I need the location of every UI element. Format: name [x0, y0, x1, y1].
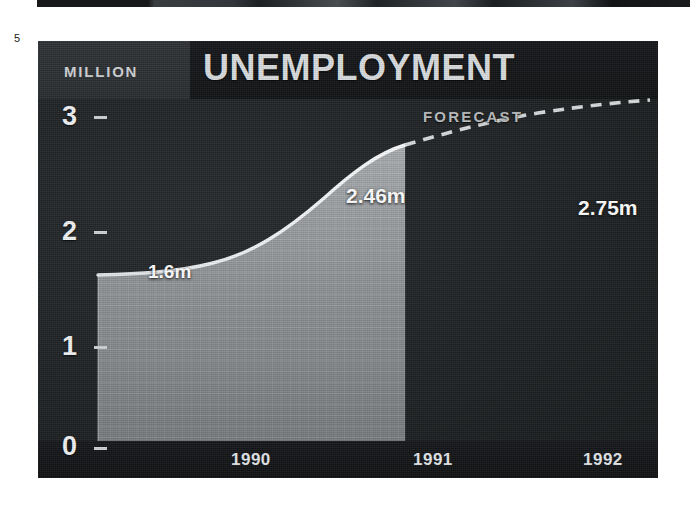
- x-tick-label-1990: 1990: [231, 450, 271, 470]
- plot-area: [38, 41, 658, 478]
- figure-number: 5: [14, 32, 20, 44]
- x-tick-label-1991: 1991: [413, 450, 453, 470]
- y-tick-label-1: 1: [62, 331, 77, 362]
- x-axis-strip: 1990 1991 1992: [38, 441, 658, 478]
- page-top-strip: [37, 0, 690, 7]
- y-tick-label-0: 0: [62, 431, 77, 462]
- callout-actual-peak-value: 2.46m: [346, 184, 406, 208]
- callout-start-value: 1.6m: [148, 261, 191, 283]
- callout-forecast-value: 2.75m: [578, 196, 638, 220]
- y-tick-mark-0: [94, 447, 107, 450]
- y-tick-mark-2: [94, 231, 107, 234]
- unit-caption: MILLION: [64, 63, 138, 80]
- y-tick-mark-1: [94, 346, 107, 349]
- y-tick-label-3: 3: [62, 101, 77, 132]
- forecast-caption: FORECAST: [423, 108, 523, 125]
- y-tick-label-2: 2: [62, 216, 77, 247]
- x-tick-label-1992: 1992: [583, 450, 623, 470]
- chart-title: UNEMPLOYMENT: [203, 47, 515, 89]
- y-tick-mark-3: [94, 116, 107, 119]
- unemployment-chart: MILLION UNEMPLOYMENT: [38, 41, 658, 478]
